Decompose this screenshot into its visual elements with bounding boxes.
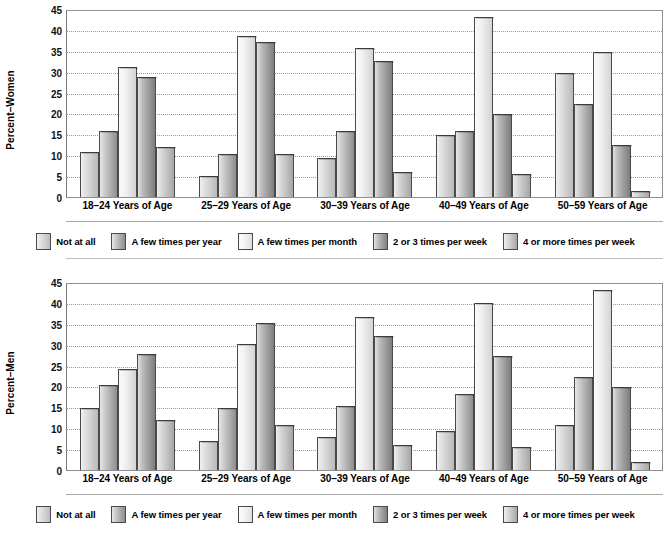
bar-4 xyxy=(612,387,631,470)
chart-panel-women: Percent–Women 051015202530354045 18–24 Y… xyxy=(0,0,671,268)
bar-1 xyxy=(555,73,574,197)
x-axis-label: 50–59 Years of Age xyxy=(543,473,662,489)
y-tick-label: 5 xyxy=(36,172,62,183)
bar-2 xyxy=(574,377,593,470)
legend-item[interactable]: A few times per month xyxy=(238,233,357,250)
legend-swatch-icon xyxy=(36,233,51,250)
bar-5 xyxy=(156,420,175,470)
legend-label: A few times per year xyxy=(131,509,221,520)
y-tick-label: 30 xyxy=(36,340,62,351)
bar-3 xyxy=(474,17,493,197)
bar-group xyxy=(306,11,425,197)
legend-swatch-icon xyxy=(373,506,388,523)
legend-swatch-icon xyxy=(238,233,253,250)
legend-swatch-icon xyxy=(111,506,126,523)
bar-group xyxy=(187,284,306,470)
panel-divider-men xyxy=(66,494,663,495)
legend-women: Not at allA few times per yearA few time… xyxy=(0,228,671,254)
bar-4 xyxy=(137,77,156,197)
bar-2 xyxy=(336,406,355,470)
bar-1 xyxy=(555,425,574,470)
legend-item[interactable]: Not at all xyxy=(36,506,95,523)
x-axis-label: 40–49 Years of Age xyxy=(424,200,543,216)
legend-swatch-icon xyxy=(503,233,518,250)
bar-1 xyxy=(436,431,455,470)
legend-label: A few times per month xyxy=(258,236,357,247)
y-tick-label: 30 xyxy=(36,67,62,78)
x-axis-label: 30–39 Years of Age xyxy=(306,200,425,216)
bar-group xyxy=(68,11,187,197)
legend-label: Not at all xyxy=(56,509,95,520)
bar-3 xyxy=(237,344,256,470)
legend-swatch-icon xyxy=(238,506,253,523)
bar-1 xyxy=(317,158,336,197)
y-tick-label: 0 xyxy=(36,193,62,204)
bar-1 xyxy=(80,152,99,197)
legend-swatch-icon xyxy=(111,233,126,250)
bar-3 xyxy=(118,67,137,197)
bar-4 xyxy=(612,145,631,197)
bar-3 xyxy=(474,303,493,470)
y-tick-label: 15 xyxy=(36,130,62,141)
x-axis-label: 25–29 Years of Age xyxy=(187,473,306,489)
x-axis-label: 40–49 Years of Age xyxy=(424,473,543,489)
bar-groups-women xyxy=(68,11,662,197)
bar-group xyxy=(543,11,662,197)
bar-2 xyxy=(218,154,237,197)
y-tick-label: 35 xyxy=(36,46,62,57)
bar-3 xyxy=(237,36,256,197)
bar-groups-men xyxy=(68,284,662,470)
x-axis-label: 50–59 Years of Age xyxy=(543,200,662,216)
x-axis-label: 18–24 Years of Age xyxy=(68,473,187,489)
legend-label: A few times per month xyxy=(258,509,357,520)
y-tick-label: 10 xyxy=(36,424,62,435)
bar-5 xyxy=(512,447,531,470)
bar-2 xyxy=(99,385,118,470)
y-tick-label: 40 xyxy=(36,25,62,36)
bar-4 xyxy=(256,323,275,470)
bar-group xyxy=(306,284,425,470)
legend-divider-women xyxy=(66,258,663,259)
bar-1 xyxy=(317,437,336,470)
y-tick-label: 10 xyxy=(36,151,62,162)
legend-swatch-icon xyxy=(36,506,51,523)
bar-1 xyxy=(199,176,218,197)
bar-5 xyxy=(631,462,650,470)
bar-3 xyxy=(355,48,374,197)
y-tick-label: 0 xyxy=(36,466,62,477)
legend-item[interactable]: A few times per year xyxy=(111,233,221,250)
bar-group xyxy=(543,284,662,470)
bar-3 xyxy=(593,290,612,470)
y-tick-label: 25 xyxy=(36,361,62,372)
legend-men: Not at allA few times per yearA few time… xyxy=(0,501,671,527)
x-axis-labels-women: 18–24 Years of Age25–29 Years of Age30–3… xyxy=(68,200,662,216)
x-axis-labels-men: 18–24 Years of Age25–29 Years of Age30–3… xyxy=(68,473,662,489)
legend-item[interactable]: 2 or 3 times per week xyxy=(373,506,487,523)
legend-item[interactable]: Not at all xyxy=(36,233,95,250)
bar-1 xyxy=(199,441,218,470)
bar-5 xyxy=(156,147,175,197)
legend-item[interactable]: 4 or more times per week xyxy=(503,233,635,250)
y-tick-label: 45 xyxy=(36,5,62,16)
legend-label: Not at all xyxy=(56,236,95,247)
bar-3 xyxy=(593,52,612,197)
legend-item[interactable]: 2 or 3 times per week xyxy=(373,233,487,250)
legend-label: 4 or more times per week xyxy=(523,509,635,520)
y-tick-label: 45 xyxy=(36,278,62,289)
chart-men: Percent–Men 051015202530354045 18–24 Yea… xyxy=(0,273,671,485)
chart-panel-men: Percent–Men 051015202530354045 18–24 Yea… xyxy=(0,268,671,537)
legend-item[interactable]: A few times per month xyxy=(238,506,357,523)
y-tick-label: 25 xyxy=(36,88,62,99)
legend-item[interactable]: 4 or more times per week xyxy=(503,506,635,523)
bar-5 xyxy=(512,174,531,197)
bar-2 xyxy=(336,131,355,197)
bar-1 xyxy=(80,408,99,470)
bar-5 xyxy=(275,425,294,470)
bar-group xyxy=(424,11,543,197)
legend-label: 2 or 3 times per week xyxy=(393,509,487,520)
legend-item[interactable]: A few times per year xyxy=(111,506,221,523)
y-tick-label: 40 xyxy=(36,298,62,309)
bar-2 xyxy=(99,131,118,197)
y-tick-label: 5 xyxy=(36,445,62,456)
y-tick-label: 20 xyxy=(36,109,62,120)
